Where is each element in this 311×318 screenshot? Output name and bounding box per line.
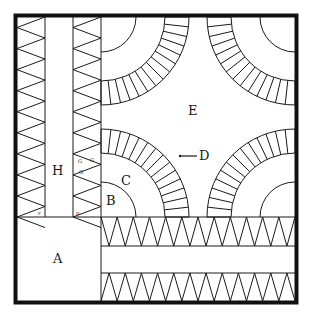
sawtooth-triangle-edge: [198, 217, 206, 246]
pieced-arc-wedge-line: [108, 81, 111, 105]
sawtooth-triangle-edge: [73, 175, 101, 186]
pieced-arc-wedge-line: [165, 24, 189, 27]
sawtooth-triangle-edge: [287, 273, 295, 301]
pointer-D-dot: [179, 155, 181, 157]
sawtooth-triangle-edge: [117, 217, 125, 246]
pieced-arc-wedge-line: [257, 75, 267, 97]
sawtooth-triangle-edge: [109, 273, 117, 301]
label-E: E: [188, 103, 198, 118]
sawtooth-triangle-edge: [279, 217, 287, 246]
quilt-diagram: H A B C D E G G G F H: [0, 0, 311, 318]
pieced-arc-wedge-line: [212, 188, 235, 196]
sawtooth-triangle-edge: [230, 273, 238, 301]
sawtooth-triangle-edge: [73, 133, 101, 144]
sawtooth-triangle-edge: [17, 49, 45, 60]
pieced-arc-wedge-line: [212, 38, 235, 46]
outer-arc-bottom-right: [207, 129, 295, 217]
label-B: B: [106, 193, 116, 208]
sawtooth-triangle-edge: [263, 273, 271, 301]
sawtooth-triangle-edge: [17, 28, 45, 39]
pieced-arc-wedge-line: [209, 31, 232, 36]
pieced-arc-wedge-line: [248, 71, 261, 91]
sawtooth-triangle-edge: [158, 217, 166, 246]
sawtooth-triangle-edge: [109, 217, 117, 246]
pieced-arc-wedge-line: [163, 197, 186, 202]
sawtooth-triangle-edge: [17, 133, 45, 144]
sawtooth-triangle-edge: [133, 273, 141, 301]
sawtooth-triangle-edge: [287, 217, 295, 246]
pieced-arc-wedge-line: [165, 207, 189, 210]
sawtooth-triangle-edge: [17, 59, 45, 70]
label-C: C: [121, 173, 131, 188]
pieced-arc-wedge-line: [129, 138, 139, 160]
sawtooth-triangle-edge: [73, 217, 101, 228]
label-H: H: [52, 163, 63, 178]
sawtooth-triangle-edge: [247, 217, 255, 246]
sawtooth-triangle-edge: [73, 196, 101, 207]
sawtooth-triangle-edge: [214, 217, 222, 246]
sawtooth-triangle-edge: [166, 217, 174, 246]
label-A: A: [52, 251, 63, 266]
sawtooth-triangle-edge: [133, 217, 141, 246]
sawtooth-triangle-edge: [17, 38, 45, 49]
sawtooth-triangle-edge: [150, 217, 158, 246]
pieced-arc-wedge-line: [161, 38, 184, 46]
pieced-arc-wedge-line: [115, 131, 120, 154]
pieced-arc-wedge-line: [159, 179, 181, 189]
sawtooth-triangle-edge: [271, 273, 279, 301]
sawtooth-triangle-edge: [73, 112, 101, 123]
sawtooth-triangle-edge: [255, 273, 263, 301]
sawtooth-triangle-edge: [190, 273, 198, 301]
sawtooth-triangle-edge: [238, 217, 246, 246]
pieced-arc-wedge-line: [163, 31, 186, 36]
sawtooth-triangle-edge: [17, 101, 45, 112]
pieced-arc-wedge-line: [275, 131, 280, 154]
label-F-small: F: [38, 211, 41, 216]
sawtooth-triangle-edge: [125, 217, 133, 246]
sawtooth-triangle-edge: [73, 59, 101, 70]
sawtooth-triangle-edge: [206, 273, 214, 301]
sawtooth-triangle-edge: [198, 273, 206, 301]
inner-arc-bottom-right: [260, 182, 295, 217]
inner-arc-top-left: [101, 17, 136, 52]
pieced-arc-wedge-line: [285, 130, 288, 154]
pieced-arc-wedge-line: [155, 51, 175, 64]
sawtooth-triangle-edge: [141, 217, 149, 246]
pieced-arc-wedge-line: [122, 134, 130, 157]
sawtooth-triangle-edge: [17, 206, 45, 217]
sawtooth-triangle-edge: [73, 17, 101, 28]
outer-arc-top-left: [101, 17, 189, 105]
sawtooth-triangle-edge: [206, 217, 214, 246]
sawtooth-triangle-edge: [230, 217, 238, 246]
sawtooth-triangle-edge: [17, 154, 45, 165]
sawtooth-triangle-edge: [17, 112, 45, 123]
sawtooth-triangle-edge: [73, 70, 101, 81]
pieced-arc-wedge-line: [216, 45, 238, 55]
pieced-arc-wedge-line: [220, 51, 240, 64]
sawtooth-triangle-edge: [73, 49, 101, 60]
sawtooth-triangle-edge: [73, 164, 101, 175]
sawtooth-triangle-edge: [174, 217, 182, 246]
pieced-arc-wedge-line: [135, 142, 148, 162]
pieced-arc-wedge-line: [275, 79, 280, 102]
sawtooth-triangle-edge: [17, 175, 45, 186]
sawtooth-triangle-edge: [182, 273, 190, 301]
sawtooth-triangle-edge: [17, 70, 45, 81]
sawtooth-triangle-edge: [214, 273, 222, 301]
sawtooth-triangle-edge: [73, 122, 101, 133]
sawtooth-triangle-edge: [73, 91, 101, 102]
sawtooth-triangle-edge: [150, 273, 158, 301]
pieced-arc-wedge-line: [115, 79, 120, 102]
sawtooth-triangle-edge: [17, 143, 45, 154]
sawtooth-triangle-edge: [166, 273, 174, 301]
pieced-arc-wedge-line: [155, 170, 175, 183]
pieced-arc-wedge-line: [266, 134, 274, 157]
pieced-arc-wedge-line: [122, 77, 130, 100]
pieced-arc-wedge-line: [129, 75, 139, 97]
pieced-arc-wedge-line: [208, 24, 232, 27]
sawtooth-triangle-edge: [17, 217, 45, 228]
sawtooth-triangle-edge: [255, 217, 263, 246]
pieced-arc-wedge-line: [108, 130, 111, 154]
sawtooth-triangle-edge: [17, 122, 45, 133]
pieced-arc-wedge-line: [161, 188, 184, 196]
